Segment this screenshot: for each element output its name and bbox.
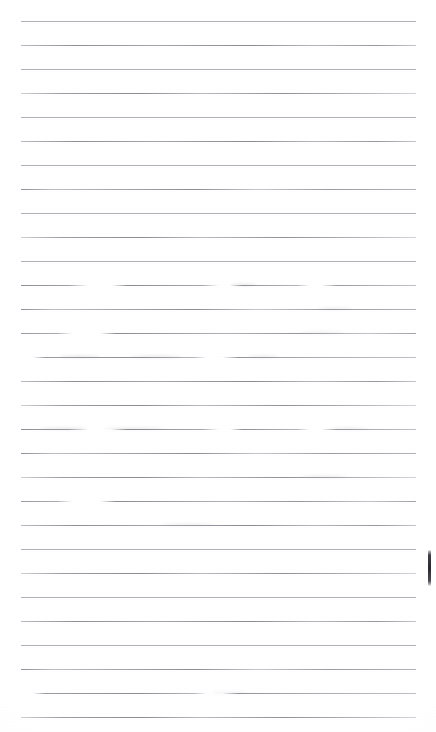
ruled-line: [21, 597, 416, 598]
ruled-line: [21, 69, 416, 70]
ruled-line: [21, 477, 416, 478]
ruled-line: [21, 285, 416, 286]
ruled-line: [21, 693, 416, 694]
ruled-line: [21, 645, 416, 646]
ruled-line: [21, 453, 416, 454]
ruled-line: [21, 141, 416, 142]
ruled-line: [21, 549, 416, 550]
ruled-line: [21, 189, 416, 190]
ruled-line: [21, 717, 416, 718]
ruled-line: [21, 45, 416, 46]
scanned-notebook-page: [0, 0, 436, 732]
ruled-lines-layer: [0, 0, 436, 732]
ruled-line: [21, 309, 416, 310]
ruled-line: [21, 237, 416, 238]
ruled-line: [21, 669, 416, 670]
ruled-line: [21, 621, 416, 622]
ruled-line: [21, 525, 416, 526]
ruled-line: [21, 501, 416, 502]
ruled-line: [21, 213, 416, 214]
ruled-line: [21, 381, 416, 382]
ruled-line: [21, 357, 416, 358]
ruled-line: [21, 429, 416, 430]
ruled-line: [21, 117, 416, 118]
ruled-line: [21, 261, 416, 262]
ruled-line: [21, 333, 416, 334]
ruled-line: [21, 573, 416, 574]
ruled-line: [21, 165, 416, 166]
ruled-line: [21, 93, 416, 94]
edge-tick-mark: [428, 550, 431, 586]
ruled-line: [21, 21, 416, 22]
ruled-line: [21, 405, 416, 406]
